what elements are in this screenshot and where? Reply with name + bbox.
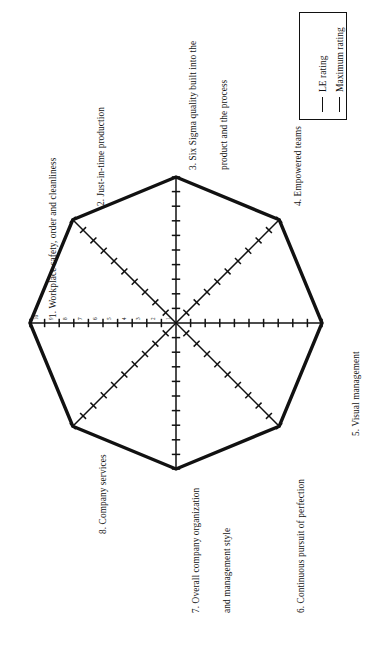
axis-scale-label: 4 xyxy=(121,317,127,320)
axis-scale-label: 10 xyxy=(33,314,39,319)
axis-scale-label: 3 xyxy=(135,317,141,320)
axis-label-8-line-1: 8. Company services xyxy=(98,454,108,534)
legend-entry-maximum-rating: Maximum rating xyxy=(334,27,345,112)
axis-label-8: 8. Company services xyxy=(77,454,129,534)
axis-label-2-line-1: 2. Just-in-time production xyxy=(96,107,106,206)
axis-scale-label: 2 xyxy=(150,317,156,320)
axis-label-2: 2. Just-in-time production xyxy=(75,107,127,206)
axis-scale-label: 8 xyxy=(62,317,68,320)
axis-label-4: 4. Empowered teams xyxy=(272,126,324,206)
axis-label-1-line-1: 1. Workplace safety, order and cleanline… xyxy=(48,158,58,318)
legend-swatch-maximum-rating xyxy=(339,97,340,112)
axis-label-5-line-1: 5. Visual management xyxy=(351,351,361,436)
axis-scale-label: 7 xyxy=(77,317,83,320)
legend-entry-le-rating: LE rating xyxy=(317,56,328,113)
axis-scale-label: 6 xyxy=(92,317,98,320)
axis-label-6-line-1: 6. Continuous pursuit of perfection xyxy=(296,479,306,613)
axis-scale-label: 5 xyxy=(106,317,112,320)
axis-scale-label: 1 xyxy=(165,317,171,320)
axis-label-3-line-2: product and the process xyxy=(219,41,229,170)
axis-label-5: 5. Visual management xyxy=(330,351,366,436)
chart-legend: LE rating Maximum rating xyxy=(299,12,347,120)
axis-scale-label: 9 xyxy=(48,317,54,320)
legend-label-maximum-rating: Maximum rating xyxy=(334,27,345,92)
axis-label-7-line-1: 7. Overall company organization xyxy=(191,488,201,613)
axis-label-1: 1. Workplace safety, order and cleanline… xyxy=(27,158,79,318)
axis-label-7: 7. Overall company organization and mana… xyxy=(170,488,253,613)
axis-label-4-line-1: 4. Empowered teams xyxy=(293,126,303,206)
axis-label-3: 3. Six Sigma quality built into the prod… xyxy=(167,41,250,170)
axis-label-6: 6. Continuous pursuit of perfection xyxy=(275,479,327,613)
axis-label-3-line-1: 3. Six Sigma quality built into the xyxy=(188,41,198,170)
legend-swatch-le-rating xyxy=(322,97,323,112)
axis-label-7-line-2: and management style xyxy=(222,488,232,613)
legend-label-le-rating: LE rating xyxy=(317,56,328,93)
